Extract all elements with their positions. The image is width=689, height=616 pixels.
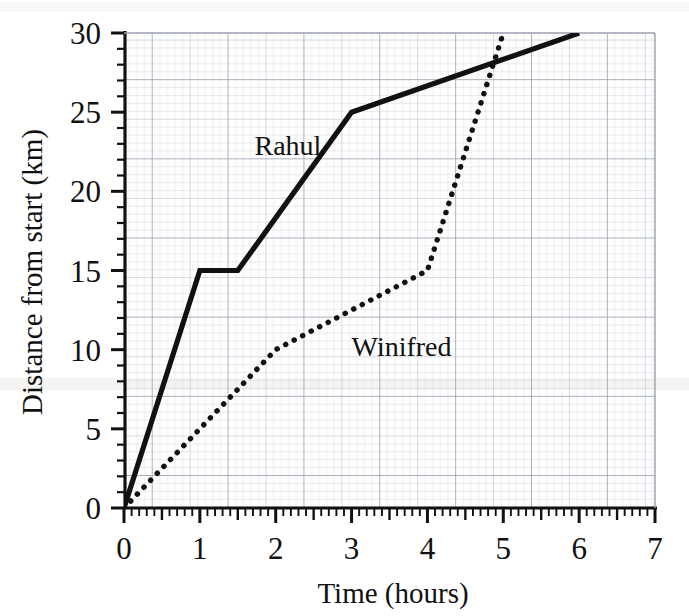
x-tick-label-5: 5 — [496, 531, 512, 566]
x-tick-label-1: 1 — [192, 531, 208, 566]
y-tick-label-25: 25 — [70, 95, 101, 130]
series-label-winifred: Winifred — [352, 331, 452, 362]
y-tick-label-5: 5 — [86, 412, 102, 447]
y-tick-label-30: 30 — [70, 16, 101, 51]
x-tick-label-7: 7 — [647, 531, 663, 566]
x-axis-title: Time (hours) — [317, 577, 468, 610]
y-axis-title: Distance from start (km) — [16, 129, 49, 415]
series-label-rahul: Rahul — [255, 130, 322, 161]
x-tick-label-0: 0 — [116, 531, 132, 566]
y-tick-label-20: 20 — [70, 174, 101, 209]
scan-artifact-band-top — [0, 2, 689, 12]
y-tick-label-10: 10 — [70, 333, 101, 368]
line-chart: Rahul Winifred 0 5 10 15 20 25 30 0 1 2 … — [0, 0, 689, 616]
chart-svg: Rahul Winifred 0 5 10 15 20 25 30 0 1 2 … — [0, 0, 689, 616]
x-tick-label-4: 4 — [420, 531, 436, 566]
y-tick-label-0: 0 — [86, 491, 102, 526]
x-tick-label-3: 3 — [344, 531, 360, 566]
x-tick-label-2: 2 — [268, 531, 284, 566]
x-tick-label-6: 6 — [571, 531, 587, 566]
y-tick-label-15: 15 — [70, 254, 101, 289]
